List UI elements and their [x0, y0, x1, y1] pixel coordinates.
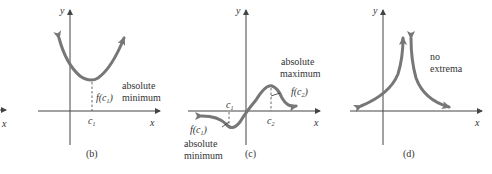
- caption-c: (c): [245, 148, 256, 160]
- annotation-minimum: minimum: [122, 92, 161, 103]
- f-c2-pointer: [271, 93, 280, 96]
- x-axis-label: x: [1, 118, 7, 129]
- x-axis-label: x: [149, 117, 155, 128]
- x-axis-label: x: [474, 117, 480, 128]
- panel-d: y x no extrema (d): [350, 5, 482, 160]
- annotation-absolute-min: absolute: [184, 138, 218, 149]
- caption-d: (d): [403, 148, 415, 160]
- annotation-absolute-max: absolute: [281, 56, 315, 67]
- annotation-minimum: minimum: [184, 150, 223, 161]
- c1-label: c1: [226, 99, 233, 111]
- extrema-figure: x y x c1 f(c1) absolute minimum (b) y x …: [0, 0, 492, 174]
- annotation-extrema: extrema: [430, 63, 463, 74]
- x-axis-label: x: [313, 117, 319, 128]
- parabola-curve: [59, 38, 124, 80]
- c2-label: c2: [267, 115, 274, 127]
- panel-a-partial: x: [0, 110, 7, 129]
- wave-curve: [202, 86, 296, 128]
- left-branch-curve: [361, 38, 403, 106]
- annotation-no: no: [430, 51, 440, 62]
- c1-label: c1: [88, 115, 95, 127]
- y-axis-label: y: [372, 5, 378, 16]
- y-axis-label: y: [235, 5, 241, 16]
- annotation-absolute: absolute: [122, 80, 156, 91]
- f-c1-label: f(c1): [190, 124, 208, 136]
- panel-c: y x c1 c2 f(c1) f(c2) absolute maximum a…: [184, 5, 321, 161]
- f-c2-label: f(c2): [291, 86, 309, 98]
- panel-b: y x c1 f(c1) absolute minimum (b): [38, 5, 161, 160]
- caption-b: (b): [86, 148, 98, 160]
- f-c1-label: f(c1): [96, 92, 114, 104]
- annotation-maximum: maximum: [280, 68, 321, 79]
- y-axis-label: y: [59, 5, 65, 16]
